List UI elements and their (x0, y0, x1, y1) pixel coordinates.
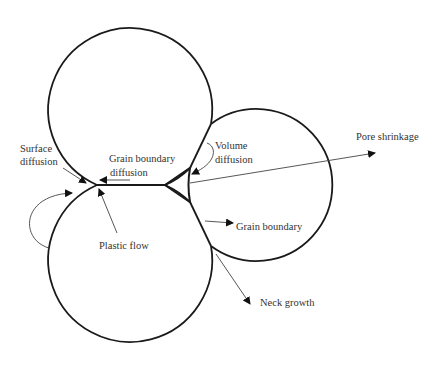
grain-boundary-line-bottom-right (190, 202, 211, 246)
bottom-particle-outline (48, 185, 212, 342)
surface-diffusion-label-1: Surface (20, 143, 52, 154)
surface-diffusion-label-2: diffusion (20, 156, 58, 167)
volume-diffusion-label-2: diffusion (215, 154, 253, 165)
grain-boundary-label: Grain boundary (236, 221, 303, 232)
pore-shrinkage-label: Pore shrinkage (356, 131, 419, 142)
volume-diffusion-label-1: Volume (215, 140, 248, 151)
neck-growth-arrow (216, 254, 250, 304)
neck-growth-label: Neck growth (260, 297, 315, 308)
plastic-flow-label: Plastic flow (99, 240, 149, 251)
grain-boundary-line-top-right (190, 124, 211, 168)
sintering-diagram: Surface diffusion Grain boundary diffusi… (0, 0, 440, 365)
grain-boundary-arrow (205, 221, 233, 223)
grain-boundary-diffusion-label-2: diffusion (110, 167, 148, 178)
right-particle-outline (211, 109, 332, 261)
plastic-flow-arrow (99, 189, 117, 233)
pore-triangle (165, 168, 190, 202)
grain-boundary-diffusion-label-1: Grain boundary (109, 153, 176, 164)
